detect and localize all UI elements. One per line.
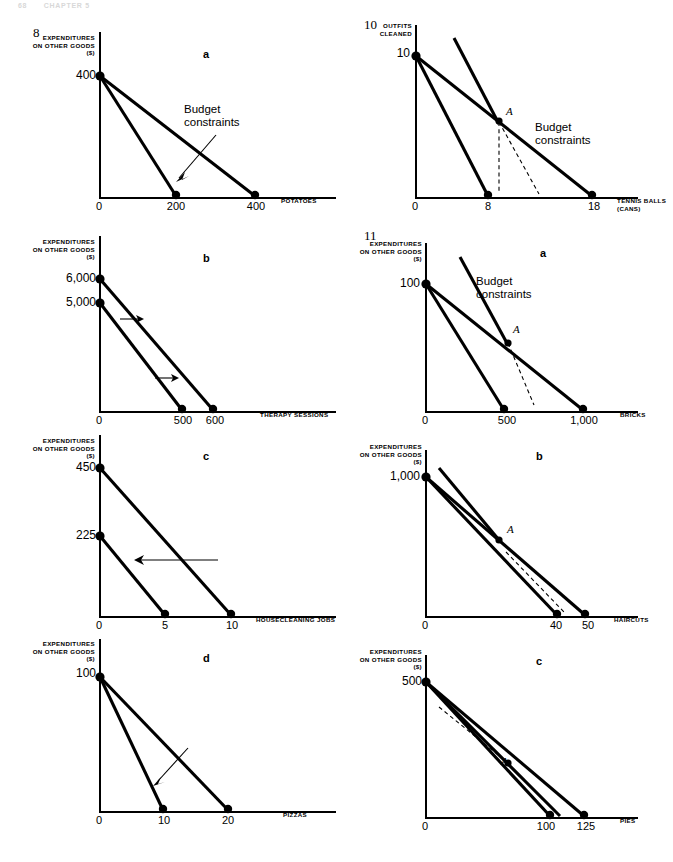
intercept-dot-10 — [159, 805, 167, 813]
compensated-line-dashed — [506, 552, 564, 612]
budget-line-inner — [426, 284, 504, 410]
fig-11c-plot — [336, 635, 673, 862]
figure-8b: EXPENDITURES ON OTHER GOODS ($) 6,000 5,… — [0, 215, 340, 430]
budget-line-inner — [100, 536, 165, 615]
intercept-dot-50 — [581, 610, 589, 618]
budget-line-outer — [100, 76, 255, 196]
intercept-dot-5000 — [95, 298, 104, 307]
intercept-dot-inner — [484, 191, 492, 199]
fig-11b-plot — [336, 430, 673, 635]
steep-price-line — [439, 468, 499, 540]
compensated-line-dashed — [508, 343, 534, 405]
steep-price-line — [454, 38, 499, 124]
intercept-dot-y — [421, 472, 430, 481]
fig-11a-plot — [336, 215, 673, 430]
budget-line-inner — [100, 677, 163, 810]
point-A-dot — [504, 759, 511, 766]
budget-line-inner — [100, 76, 176, 196]
budget-line-inner — [416, 56, 488, 196]
fig-8b-plot — [0, 215, 340, 430]
intercept-dot-600 — [209, 405, 217, 413]
figure-11b: EXPENDITURES ON OTHER GOODS ($) 1,000 0 … — [336, 430, 673, 635]
intercept-dot-225 — [95, 531, 104, 540]
intercept-dot-y — [421, 677, 430, 686]
intercept-dot-inner — [172, 191, 180, 199]
intercept-dot-y — [95, 71, 104, 80]
figure-8a: 8 EXPENDITURES ON OTHER GOODS ($) 400 0 … — [0, 0, 340, 215]
budget-line-inner — [426, 682, 550, 816]
intercept-dot-y — [421, 279, 430, 288]
fig-8d-plot — [0, 635, 340, 862]
point-A-dot — [504, 339, 511, 346]
intercept-dot-y — [95, 672, 104, 681]
intercept-dot-y — [411, 51, 420, 60]
intercept-dot-500 — [500, 405, 508, 413]
intercept-dot-125 — [580, 811, 588, 819]
figure-8c: EXPENDITURES ON OTHER GOODS ($) 450 225 … — [0, 430, 340, 635]
intercept-dot-10 — [227, 610, 235, 618]
figure-11c: EXPENDITURES ON OTHER GOODS ($) 500 0 10… — [336, 635, 673, 862]
intercept-dot-100 — [546, 811, 554, 819]
budget-line-outer — [416, 56, 592, 196]
intercept-dot-20 — [224, 805, 232, 813]
intercept-dot-outer — [588, 191, 596, 199]
figure-10: 10 OUTFITS CLEANED 10 0 8 18 TENNIS BALL… — [336, 0, 673, 215]
shift-arrow-head — [153, 777, 165, 786]
fig-8a-plot — [0, 0, 340, 215]
budget-line-inner — [426, 477, 557, 615]
figure-8d: EXPENDITURES ON OTHER GOODS ($) 100 0 10… — [0, 635, 340, 862]
point-A-dot — [495, 117, 502, 124]
budget-line-outer — [426, 682, 584, 816]
intercept-dot-500 — [178, 405, 186, 413]
fig-10-plot — [336, 0, 673, 215]
intercept-dot-450 — [95, 463, 104, 472]
intercept-dot-40 — [553, 610, 561, 618]
compensated-line-dashed — [439, 707, 508, 763]
budget-line-outer — [426, 284, 583, 410]
budget-line-outer — [100, 677, 228, 810]
compensated-line-dashed — [499, 122, 539, 194]
budget-line-outer — [426, 477, 585, 615]
budget-line-outer — [100, 468, 231, 615]
intercept-dot-outer — [251, 191, 259, 199]
intercept-dot-1000 — [579, 405, 587, 413]
figure-11a: 11 EXPENDITURES ON OTHER GOODS ($) 100 0… — [336, 215, 673, 430]
fig-8c-plot — [0, 430, 340, 635]
intercept-dot-6000 — [95, 274, 104, 283]
budget-line-outer — [100, 279, 213, 410]
point-A-dot — [495, 536, 502, 543]
intercept-dot-5 — [161, 610, 169, 618]
